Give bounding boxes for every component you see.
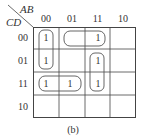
col-header-01: 01 [59,14,85,24]
row-header-10: 10 [14,102,32,112]
col-header-11: 11 [85,14,110,24]
kmap-grid: 1 1 1 1 1 1 1 [33,27,136,118]
cell-r01-c00: 1 [33,56,59,66]
col-header-00: 00 [33,14,59,24]
row-header-01: 01 [14,56,32,66]
cell-r11-c11: 1 [85,79,111,89]
cell-r00-c00: 1 [33,33,59,43]
row-header-00: 00 [14,33,32,43]
figure-caption: (b) [60,125,86,135]
col-header-10: 10 [110,14,136,24]
col-variable-label: AB [20,4,33,15]
cell-r01-c11: 1 [85,56,111,66]
cell-r11-c00: 1 [33,79,59,89]
cell-r11-c01: 1 [57,79,83,89]
row-header-11: 11 [14,79,32,89]
cell-r00-c11: 1 [85,33,111,43]
row-variable-label: CD [6,17,21,28]
